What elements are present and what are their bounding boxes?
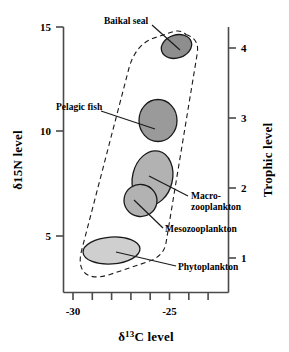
x-axis-title-superscript: 13: [125, 329, 135, 339]
label-pelagic-fish: Pelagic fish: [56, 102, 103, 112]
y-tick-label-15: 15: [40, 21, 52, 33]
y-tick-label-10: 10: [40, 125, 52, 137]
x-axis-title-rest: C level: [135, 329, 174, 344]
x-tick-label-30: -30: [66, 305, 81, 317]
y2-tick-label-3: 3: [241, 112, 247, 124]
y-axis-right-title: Trophic level: [260, 122, 275, 197]
ellipse-pelagic-fish[interactable]: [139, 100, 177, 142]
label-baikal-seal: Baikal seal: [104, 16, 148, 26]
y2-tick-label-4: 4: [241, 42, 247, 54]
label-macrozooplankton-line1: Macro-: [191, 191, 221, 201]
x-tick-label-25: -25: [162, 305, 177, 317]
y-tick-label-5: 5: [46, 230, 52, 242]
stable-isotope-biplot: 15 10 5 4 3 2 1 -30 -25 δ15N level Troph…: [0, 0, 289, 352]
x-axis-title-symbol: δ: [118, 329, 125, 344]
label-macrozooplankton-line2: zooplankton: [191, 202, 242, 212]
label-mesozooplankton: Mesozooplankton: [165, 224, 238, 234]
y2-tick-label-2: 2: [241, 182, 247, 194]
label-phytoplankton: Phytoplankton: [178, 262, 239, 272]
y2-tick-label-1: 1: [241, 252, 247, 264]
y-axis-left-title: δ15N level: [10, 130, 25, 190]
